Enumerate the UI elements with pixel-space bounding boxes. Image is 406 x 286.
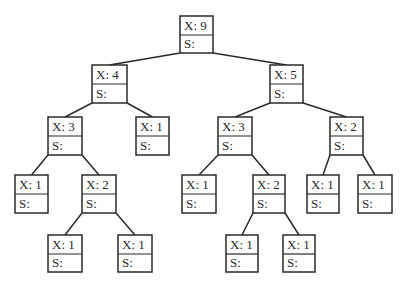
node-x-label: X: 1	[186, 177, 209, 192]
node-s-label: S:	[19, 196, 30, 211]
node-x-label: X: 2	[334, 119, 357, 134]
tree-node: X: 1S:	[136, 117, 169, 155]
node-x-label: X: 1	[19, 177, 42, 192]
node-s-label: S:	[230, 255, 241, 270]
node-s-label: S:	[96, 86, 107, 101]
node-x-label: X: 2	[257, 177, 280, 192]
tree-edge	[213, 53, 287, 65]
tree-node: X: 1S:	[48, 235, 82, 272]
binary-tree-diagram: X: 9S:X: 4S:X: 5S:X: 3S:X: 1S:X: 3S:X: 2…	[0, 0, 406, 286]
node-x-label: X: 3	[222, 119, 245, 134]
node-s-label: S:	[274, 86, 285, 101]
node-s-label: S:	[184, 36, 195, 51]
node-x-label: X: 1	[122, 237, 145, 252]
tree-edge	[242, 213, 253, 235]
node-x-label: X: 1	[230, 237, 253, 252]
node-x-label: X: 1	[311, 177, 334, 192]
tree-nodes: X: 9S:X: 4S:X: 5S:X: 3S:X: 1S:X: 3S:X: 2…	[15, 16, 392, 272]
tree-edge	[252, 155, 269, 175]
tree-edge	[127, 103, 153, 117]
node-x-label: X: 4	[96, 67, 119, 82]
tree-node: X: 2S:	[82, 175, 116, 213]
tree-node: X: 1S:	[182, 175, 216, 213]
tree-node: X: 4S:	[92, 65, 127, 103]
node-s-label: S:	[257, 196, 268, 211]
tree-edge	[303, 103, 347, 117]
node-s-label: S:	[334, 138, 345, 153]
node-s-label: S:	[311, 196, 322, 211]
node-s-label: S:	[52, 138, 63, 153]
tree-node: X: 1S:	[226, 235, 258, 272]
tree-node: X: 9S:	[180, 16, 213, 53]
node-x-label: X: 1	[287, 237, 310, 252]
node-s-label: S:	[362, 196, 373, 211]
tree-node: X: 1S:	[307, 175, 339, 213]
tree-edge	[116, 213, 135, 235]
tree-node: X: 1S:	[358, 175, 392, 213]
tree-node: X: 3S:	[218, 117, 252, 155]
tree-edge	[363, 155, 375, 175]
tree-node: X: 1S:	[15, 175, 48, 213]
tree-edge	[235, 103, 270, 117]
tree-edge	[32, 155, 49, 175]
node-s-label: S:	[52, 255, 63, 270]
node-s-label: S:	[140, 138, 151, 153]
tree-node: X: 1S:	[118, 235, 152, 272]
tree-edge	[82, 155, 99, 175]
tree-node: X: 5S:	[270, 65, 303, 103]
tree-node: X: 2S:	[253, 175, 285, 213]
tree-node: X: 1S:	[283, 235, 315, 272]
node-x-label: X: 3	[52, 119, 75, 134]
node-x-label: X: 9	[184, 18, 207, 33]
node-s-label: S:	[122, 255, 133, 270]
tree-node: X: 3S:	[48, 117, 82, 155]
node-s-label: S:	[86, 196, 97, 211]
node-x-label: X: 2	[86, 177, 109, 192]
node-x-label: X: 1	[362, 177, 385, 192]
tree-node: X: 2S:	[330, 117, 363, 155]
tree-edge	[65, 213, 82, 235]
tree-edge	[110, 53, 181, 65]
node-s-label: S:	[186, 196, 197, 211]
node-x-label: X: 5	[274, 67, 297, 82]
tree-edge	[285, 213, 299, 235]
node-x-label: X: 1	[140, 119, 163, 134]
tree-edge	[323, 155, 330, 175]
tree-edge	[65, 103, 92, 117]
tree-edge	[199, 155, 218, 175]
node-s-label: S:	[222, 138, 233, 153]
node-x-label: X: 1	[52, 237, 75, 252]
node-s-label: S:	[287, 255, 298, 270]
